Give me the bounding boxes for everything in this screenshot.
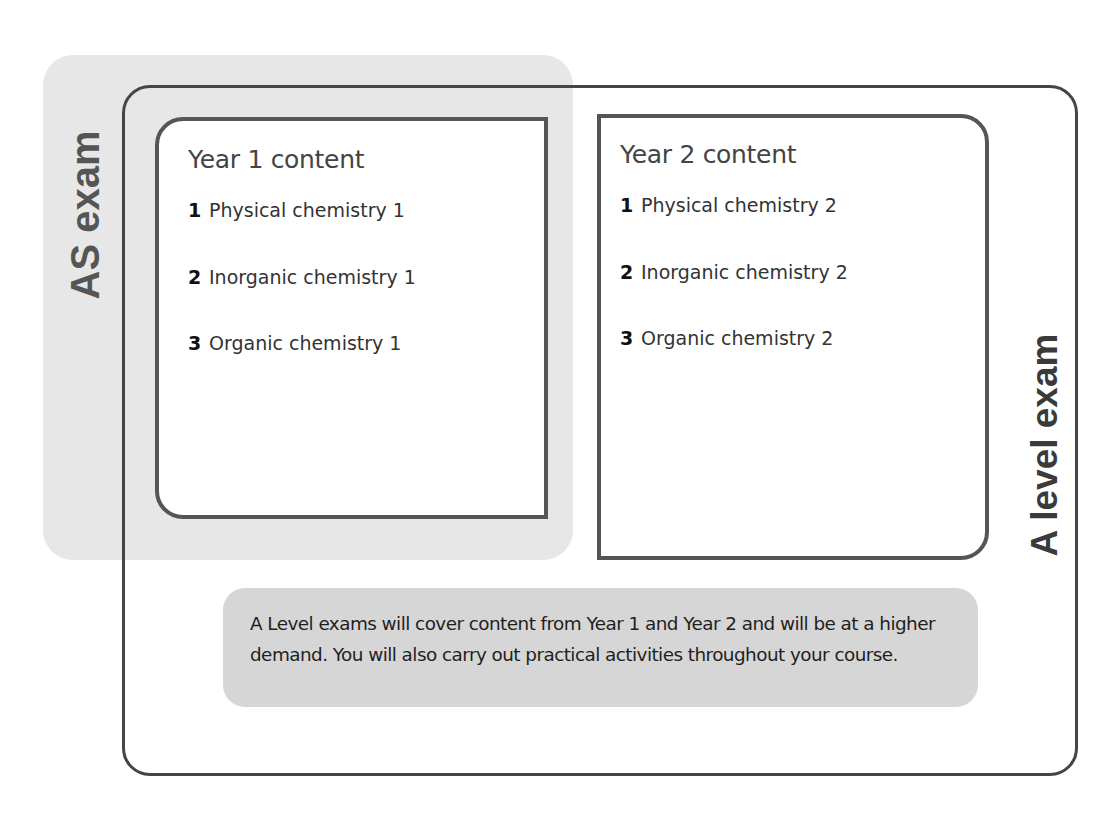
as-exam-label: AS exam	[50, 115, 120, 315]
item-label: Physical chemistry 1	[209, 199, 405, 221]
item-number: 2	[620, 261, 641, 283]
list-item: 2Inorganic chemistry 1	[188, 266, 416, 333]
list-item: 2Inorganic chemistry 2	[620, 261, 848, 328]
item-label: Organic chemistry 2	[641, 327, 833, 349]
list-item: 3Organic chemistry 1	[188, 332, 416, 399]
item-number: 3	[620, 327, 641, 349]
item-number: 1	[188, 199, 209, 221]
a-level-note: A Level exams will cover content from Ye…	[223, 588, 978, 707]
item-label: Inorganic chemistry 2	[641, 261, 848, 283]
year2-title: Year 2 content	[620, 140, 796, 169]
year2-content-box: Year 2 content 1Physical chemistry 2 2In…	[597, 114, 989, 560]
list-item: 1Physical chemistry 1	[188, 199, 416, 266]
item-number: 3	[188, 332, 209, 354]
item-label: Organic chemistry 1	[209, 332, 401, 354]
item-number: 1	[620, 194, 641, 216]
list-item: 1Physical chemistry 2	[620, 194, 848, 261]
list-item: 3Organic chemistry 2	[620, 327, 848, 394]
year2-topic-list: 1Physical chemistry 2 2Inorganic chemist…	[620, 194, 848, 394]
year1-content-box: Year 1 content 1Physical chemistry 1 2In…	[155, 117, 548, 519]
item-label: Physical chemistry 2	[641, 194, 837, 216]
year1-title: Year 1 content	[188, 145, 364, 174]
item-label: Inorganic chemistry 1	[209, 266, 416, 288]
year1-topic-list: 1Physical chemistry 1 2Inorganic chemist…	[188, 199, 416, 399]
item-number: 2	[188, 266, 209, 288]
a-level-exam-label: A level exam	[1015, 330, 1075, 560]
